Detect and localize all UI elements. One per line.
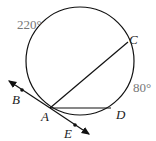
- point-E-dot: [73, 123, 77, 127]
- label-E: E: [63, 126, 72, 141]
- label-C: C: [129, 32, 138, 47]
- circle-diagram: 220° 80° C B A D E: [0, 0, 156, 141]
- label-A: A: [40, 109, 49, 124]
- chord-AC: [50, 42, 128, 108]
- point-B-dot: [20, 88, 24, 92]
- label-D: D: [115, 107, 126, 122]
- arc-label-80: 80°: [133, 80, 151, 95]
- circle: [26, 7, 134, 115]
- label-B: B: [12, 92, 20, 107]
- arc-label-220: 220°: [17, 17, 42, 32]
